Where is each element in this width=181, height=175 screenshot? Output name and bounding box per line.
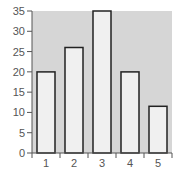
y-tick-label: 35 <box>13 5 25 17</box>
x-tick-label: 2 <box>71 157 77 169</box>
y-tick-label: 0 <box>19 147 25 159</box>
x-tick-label: 5 <box>155 157 161 169</box>
y-tick-label: 30 <box>13 25 25 37</box>
bar-2 <box>65 48 83 154</box>
bar-chart: 0510152025303512345 <box>0 0 181 175</box>
bar-5 <box>149 106 167 153</box>
x-tick-label: 1 <box>43 157 49 169</box>
bar-1 <box>37 72 55 153</box>
y-tick-label: 25 <box>13 46 25 58</box>
y-tick-label: 10 <box>13 106 25 118</box>
x-tick-label: 4 <box>127 157 133 169</box>
x-tick-label: 3 <box>99 157 105 169</box>
y-tick-label: 5 <box>19 127 25 139</box>
bar-4 <box>121 72 139 153</box>
y-tick-label: 15 <box>13 86 25 98</box>
y-tick-label: 20 <box>13 66 25 78</box>
bar-3 <box>93 11 111 153</box>
